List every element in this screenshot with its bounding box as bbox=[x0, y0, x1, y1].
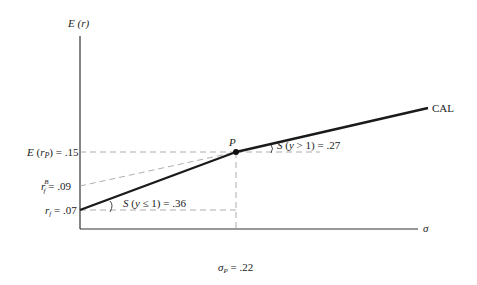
erp-label: E (rP) = .15 bbox=[26, 146, 79, 160]
slope-low-label: S (y ≤ 1) = .36 bbox=[123, 197, 186, 210]
slope-high-label: S (y > 1) = .27 bbox=[277, 139, 341, 152]
rf-label: rf = .07 bbox=[45, 204, 77, 218]
cal-label: CAL bbox=[432, 102, 454, 114]
cal-chart: E (r) σ P S (y ≤ 1) = .36 S (y > 1) = .2… bbox=[0, 0, 477, 285]
rfb-label: rBf = .09 bbox=[41, 178, 71, 195]
x-axis-label: σ bbox=[423, 222, 429, 234]
point-p-label: P bbox=[228, 136, 236, 148]
y-axis-label: E (r) bbox=[67, 17, 89, 30]
portfolio-point-p bbox=[233, 149, 239, 155]
angle-arc-high bbox=[271, 145, 273, 153]
sigma-p-label: σP = .22 bbox=[218, 261, 253, 275]
